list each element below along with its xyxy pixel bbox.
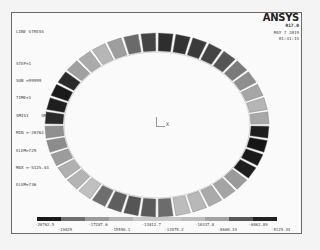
legend-label: -12075.2 [164, 227, 183, 232]
legend-swatch [181, 217, 205, 221]
legend-label: -10337.8 [195, 222, 214, 227]
ring-element [173, 196, 190, 216]
legend-label: -13812.7 [142, 222, 161, 227]
legend-label: -6862.89 [248, 222, 267, 227]
contour-legend-bar [37, 217, 277, 221]
legend-label: -8600.34 [218, 227, 237, 232]
ring-element [141, 33, 156, 52]
ring-element [158, 198, 173, 217]
ring-element [124, 34, 141, 54]
ring-element [45, 112, 64, 124]
legend-swatch [253, 217, 277, 221]
legend-label: -15550.1 [111, 227, 130, 232]
ring-element [124, 196, 141, 216]
legend-label: -5125.44 [271, 227, 290, 232]
legend-label: -17287.6 [88, 222, 107, 227]
legend-swatch [85, 217, 109, 221]
legend-swatch [229, 217, 253, 221]
legend-label: -19025 [58, 227, 72, 232]
legend-swatch [157, 217, 181, 221]
ring-element [141, 198, 156, 217]
legend-swatch [133, 217, 157, 221]
axis-x-label: X [166, 121, 169, 127]
axis-triad-icon [156, 117, 165, 127]
legend-swatch [109, 217, 133, 221]
ring-element [158, 33, 173, 52]
ring-element [173, 34, 190, 54]
legend-swatch [205, 217, 229, 221]
legend-swatch [37, 217, 61, 221]
ring-element [250, 112, 269, 124]
ring-element [45, 126, 64, 138]
ring-element [250, 126, 269, 138]
legend-swatch [61, 217, 85, 221]
legend-label: -20762.5 [35, 222, 54, 227]
